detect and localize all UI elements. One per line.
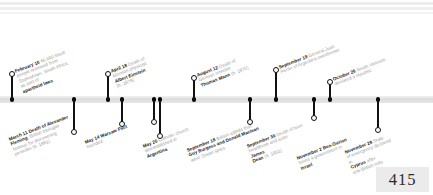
header-rule-3 [0,12,433,14]
event-endpoint-circle-icon [311,115,317,121]
event-endpoint-circle-icon [157,133,163,139]
event-label-may-20: May 20 Catholic churchdisestablished in … [142,127,193,160]
timeline-axis [0,96,433,103]
timeline-page: February 10 60,000 blackpeople removed f… [0,0,433,195]
event-connector-line [73,100,75,132]
event-label-sep-19: September 19 General JuanPerón of Argent… [278,43,340,76]
event-connector-line [377,100,379,130]
event-connector-line [11,74,13,100]
event-label-mar-11: March 11 Death of AlexanderFleming, Brit… [8,114,75,157]
event-endpoint-circle-icon [375,127,381,133]
event-label-feb-10: February 10 60,000 blackpeople removed f… [14,50,74,95]
event-label-oct-26: October 26 South Vietnamdeclared a repub… [332,57,388,87]
event-label-aug-12: August 12 Death ofGerman novelistThomas … [196,55,249,88]
event-endpoint-circle-icon [247,119,253,125]
event-connector-line [121,100,123,124]
event-connector-line [193,78,195,100]
event-connector-line [275,70,277,100]
event-label-apr-18: April 18 Death ofGerman physicistAlbert … [110,56,151,89]
header-rule-2 [0,7,433,10]
event-endpoint-circle-icon [151,119,157,125]
header-rule-1 [0,2,433,5]
event-connector-line [107,74,109,100]
page-number: 415 [376,167,429,192]
event-connector-line [159,100,161,136]
event-label-may-14: May 14 Warsaw Pactfounded [84,124,130,150]
